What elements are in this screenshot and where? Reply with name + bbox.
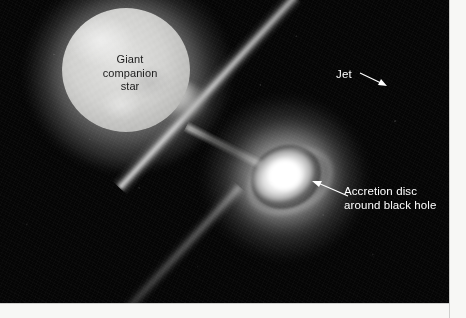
page-margin-right — [449, 0, 466, 318]
accretion-stream — [183, 121, 266, 172]
companion-star-label-line2: companion — [103, 67, 158, 79]
accretion-disc-label: Accretion discaround black hole — [344, 185, 437, 212]
page-margin-bottom — [0, 303, 449, 318]
accretion-disc-body — [240, 133, 332, 220]
companion-star-label-line1: Giant — [117, 53, 144, 65]
figure-canvas: Giantcompanionstar Jet Accretion discaro… — [0, 0, 466, 318]
accretion-disc-label-line2: around black hole — [344, 199, 437, 211]
accretion-disc-label-line1: Accretion disc — [344, 185, 417, 197]
companion-star-label: Giantcompanionstar — [94, 53, 166, 94]
companion-star-label-line3: star — [121, 80, 140, 92]
jet-label: Jet — [336, 68, 352, 81]
jet-leader-arrow — [356, 64, 396, 94]
astronomy-illustration-plate: Giantcompanionstar Jet Accretion discaro… — [0, 0, 449, 303]
counter-jet-beam — [97, 180, 247, 303]
